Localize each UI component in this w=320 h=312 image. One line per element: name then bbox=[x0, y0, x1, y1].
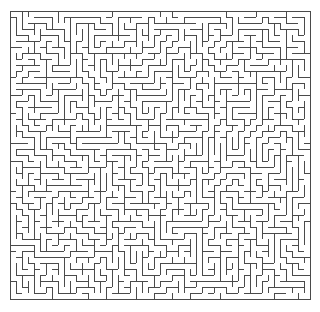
maze-figure: Rectangular perfect maze bbox=[0, 0, 320, 312]
maze-border bbox=[0, 0, 320, 312]
maze-outer-wall bbox=[11, 12, 311, 300]
